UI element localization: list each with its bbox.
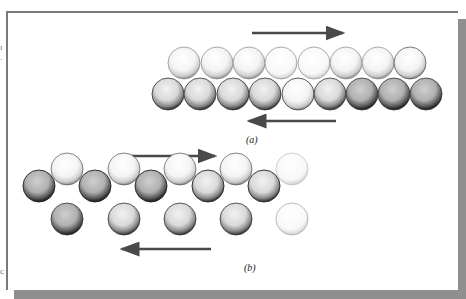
panel-b-label: (b)	[244, 262, 256, 273]
top-row	[168, 47, 426, 79]
panel-b	[23, 153, 308, 249]
panel-a-label: (a)	[246, 134, 258, 145]
bottom-row	[152, 78, 442, 110]
sphere-diagram	[0, 0, 466, 299]
panel-a	[152, 33, 442, 121]
lower-row	[51, 203, 308, 235]
